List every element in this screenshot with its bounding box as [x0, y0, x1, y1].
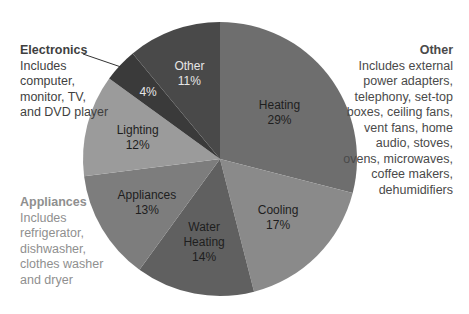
pie-slices [83, 22, 357, 296]
electronics-annotation: Electronics Includes computer, monitor, … [20, 43, 110, 121]
slice-label-electronics: 4% [139, 85, 157, 99]
other-annotation-title: Other [343, 43, 453, 59]
slice-label-other: Other11% [174, 59, 204, 88]
electronics-annotation-body: Includes computer, monitor, TV, and DVD … [20, 59, 110, 121]
other-annotation: Other Includes external power adapters, … [343, 43, 453, 198]
electronics-annotation-title: Electronics [20, 43, 110, 59]
other-annotation-body: Includes external power adapters, teleph… [343, 59, 453, 199]
appliances-annotation: Appliances Includes refrigerator, dishwa… [20, 195, 120, 288]
appliances-annotation-body: Includes refrigerator, dishwasher, cloth… [20, 211, 120, 289]
appliances-annotation-title: Appliances [20, 195, 120, 211]
